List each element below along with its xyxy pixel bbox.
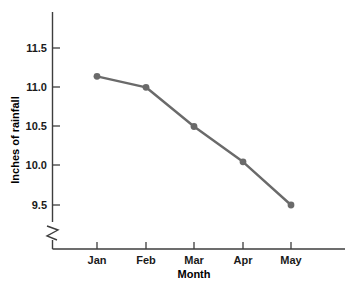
x-tick-label-jan: Jan <box>88 254 107 266</box>
data-point-mar <box>191 123 198 130</box>
chart-canvas: 11.5 11.0 10.5 10.0 9.5 Jan Feb Mar Apr … <box>0 0 353 284</box>
y-tick-label-11-0: 11.0 <box>26 81 47 93</box>
data-point-feb <box>143 84 150 91</box>
x-tick-label-mar: Mar <box>184 254 204 266</box>
data-point-jan <box>94 73 101 80</box>
rainfall-line-chart: 11.5 11.0 10.5 10.0 9.5 Jan Feb Mar Apr … <box>0 0 353 284</box>
y-tick-label-9-5: 9.5 <box>32 199 47 211</box>
y-tick-label-10-5: 10.5 <box>26 120 47 132</box>
x-tick-label-may: May <box>280 254 302 266</box>
x-axis-title: Month <box>178 268 211 280</box>
x-tick-label-feb: Feb <box>136 254 156 266</box>
x-tick-label-apr: Apr <box>234 254 254 266</box>
y-tick-label-10-0: 10.0 <box>26 159 47 171</box>
y-tick-label-11-5: 11.5 <box>26 42 47 54</box>
y-axis-title: Inches of rainfall <box>9 96 21 183</box>
data-point-may <box>288 202 295 209</box>
data-point-apr <box>240 158 247 165</box>
